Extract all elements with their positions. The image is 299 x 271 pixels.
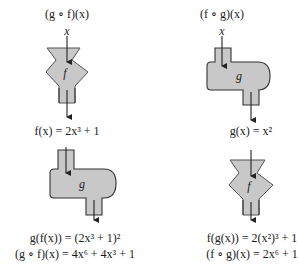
right-intermediate: g(x) = x²	[230, 125, 272, 137]
right-g-label: g	[236, 69, 242, 83]
left-input-label: x	[64, 25, 69, 37]
left-title: (g ∘ f)(x)	[45, 8, 89, 20]
left-g-machine: g	[50, 150, 116, 215]
left-result-line1: g(f(x)) = (2x³ + 1)²	[30, 232, 121, 244]
left-g-label: g	[79, 177, 85, 191]
right-result-line1: f(g(x)) = 2(x²)³ + 1	[207, 232, 298, 244]
left-result-line2: (g ∘ f)(x) = 4x⁶ + 4x³ + 1	[15, 248, 135, 260]
right-g-machine: g	[207, 48, 270, 105]
right-result-line2: (f ∘ g)(x) = 2x⁶ + 1	[206, 248, 298, 260]
right-input-label: x	[219, 25, 224, 37]
right-title: (f ∘ g)(x)	[200, 8, 244, 20]
left-intermediate: f(x) = 2x³ + 1	[34, 125, 99, 137]
